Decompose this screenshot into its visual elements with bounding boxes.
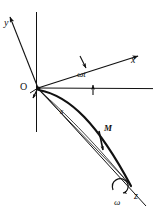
diagram-canvas — [0, 0, 154, 220]
point-mass-label-m: M — [104, 124, 112, 133]
origin-label: O — [20, 82, 27, 92]
horizontal-reference-line — [38, 88, 153, 89]
y-axis-line — [10, 17, 38, 88]
angle-label-omega-t: ωt — [77, 70, 86, 79]
origin-radius-line — [38, 89, 128, 182]
x-axis-line — [38, 56, 138, 88]
angle-marker-upper-arrow — [80, 56, 86, 68]
origin-dot — [37, 87, 41, 91]
x-axis-label: x — [131, 55, 135, 65]
y-axis-label: y — [4, 18, 8, 28]
z-axis-label: z — [134, 191, 138, 201]
angular-velocity-label-omega: ω — [114, 198, 120, 207]
rotation-arrow — [112, 179, 128, 193]
figure-root: y x z O ωt s M ω — [0, 0, 154, 220]
arc-length-label-s: s — [60, 107, 64, 116]
